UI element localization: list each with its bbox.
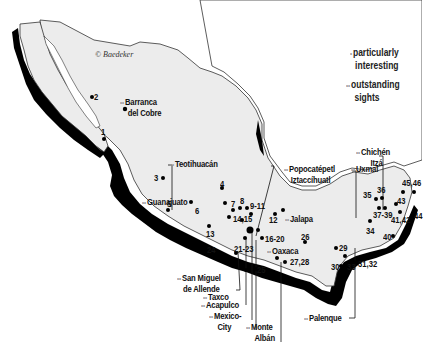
label-text: Chichén (361, 147, 390, 157)
legend-particularly-interesting: •particularly interesting (350, 47, 399, 72)
marker-2: 2 (94, 92, 98, 102)
label-text: Popocatépetl (289, 164, 335, 174)
label-mexico-city: ••Mexico- City (209, 311, 241, 332)
marker-24: 24 (207, 245, 216, 255)
marker-35: 35 (363, 190, 372, 200)
star-icon: •• (285, 216, 289, 223)
marker-29: 29 (339, 243, 348, 253)
marker-1: 1 (101, 127, 105, 137)
star-icon: •• (304, 315, 308, 322)
star-icon: •• (284, 166, 288, 173)
marker-13: 13 (206, 229, 215, 239)
marker-36: 36 (377, 185, 386, 195)
label-popocatepetl: ••Popocatépetl Iztaccíhuatl (284, 164, 335, 185)
marker-31-32: 31,32 (358, 259, 377, 269)
marker-37-39: 37-39 (373, 210, 393, 220)
marker-5: 5 (167, 199, 171, 209)
marker-45-46: 45,46 (402, 178, 421, 188)
marker-21-23: 21-23 (234, 244, 254, 254)
label-acapulco: ••Acapulco (201, 300, 239, 311)
legend-outstanding-sights: ••outstanding sights (346, 79, 400, 104)
label-uxmal: ••Uxmal (351, 164, 378, 175)
marker-41-42: 41,42 (391, 215, 410, 225)
star-icon: •• (177, 275, 181, 282)
star-icon: •• (246, 324, 250, 331)
star-icon: •• (142, 199, 146, 206)
label-text: San Miguel (182, 273, 221, 283)
marker-27-28: 27,28 (290, 257, 309, 267)
label-text: Monte (251, 322, 273, 332)
marker-26: 26 (301, 232, 310, 242)
copyright-notice: © Baedeker (95, 50, 133, 59)
label-text: City (218, 322, 232, 332)
label-text: Uxmal (356, 164, 378, 174)
star-icon: •• (170, 161, 174, 168)
label-text: Acapulco (206, 300, 239, 310)
marker-12: 12 (269, 215, 278, 225)
label-text: Oaxaca (272, 246, 298, 256)
star-icon: •• (209, 313, 213, 320)
label-text: Palenque (309, 313, 342, 323)
star-icon: •• (201, 302, 205, 309)
label-barranca-del-cobre: ••Barranca del Cobre (120, 97, 161, 118)
marker-3: 3 (154, 173, 158, 183)
label-palenque: ••Palenque (304, 313, 342, 324)
label-text: Teotihuacán (175, 159, 218, 169)
label-text: Mexico- (214, 311, 241, 321)
marker-7: 7 (231, 199, 235, 209)
marker-44: 44 (414, 211, 423, 221)
legend-label: particularly (353, 47, 399, 58)
marker-8: 8 (240, 196, 244, 206)
legend-label: sights (355, 92, 380, 103)
label-san-miguel-de-allende: ••San Miguel de Allende (177, 273, 221, 294)
star-icon: •• (346, 82, 350, 89)
star-icon: •• (351, 166, 355, 173)
label-text: Barranca (125, 97, 157, 107)
marker-14-15: 14,15 (233, 214, 252, 224)
marker-33: 33 (347, 262, 356, 272)
label-text: Iztaccíhuatl (291, 175, 331, 185)
marker-4: 4 (220, 179, 224, 189)
star-icon: •• (356, 149, 360, 156)
marker-16-20: 16-20 (265, 234, 285, 244)
label-jalapa: ••Jalapa (285, 214, 313, 225)
label-teotihuacan: ••Teotihuacán (170, 159, 218, 170)
marker-34: 34 (366, 226, 375, 236)
legend-label: outstanding (351, 79, 400, 90)
marker-43: 43 (397, 196, 406, 206)
legend-label: interesting (355, 60, 398, 71)
marker-25: 25 (257, 265, 266, 275)
label-oaxaca: ••Oaxaca (267, 246, 298, 257)
star-icon: •• (120, 99, 124, 106)
label-text: Jalapa (290, 214, 313, 224)
marker-9-11: 9-11 (250, 201, 265, 211)
star-icon: •• (267, 248, 271, 255)
label-text: Albán (255, 333, 275, 343)
label-text: del Cobre (128, 108, 162, 118)
label-guanajuato: ••Guanajuato (142, 197, 187, 208)
marker-40: 40 (383, 232, 392, 242)
marker-6: 6 (195, 206, 199, 216)
marker-30: 30 (331, 262, 340, 272)
label-monte-alban: ••Monte Albán (246, 322, 275, 343)
